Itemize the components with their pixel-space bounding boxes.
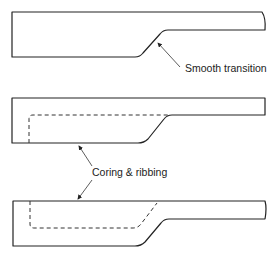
diagram-canvas: Smooth transition Coring & ribbing [0,0,277,257]
smooth-transition-leader [158,43,180,67]
coring-leader-bottom [78,180,92,199]
panel-1-section [12,12,265,67]
panel-2-section [12,98,265,166]
smooth-transition-label: Smooth transition [185,62,267,74]
panel-3-section [13,180,266,246]
coring-leader-top [79,146,92,166]
coring-ribbing-label: Coring & ribbing [92,166,167,178]
diagram-drawing [0,0,277,257]
